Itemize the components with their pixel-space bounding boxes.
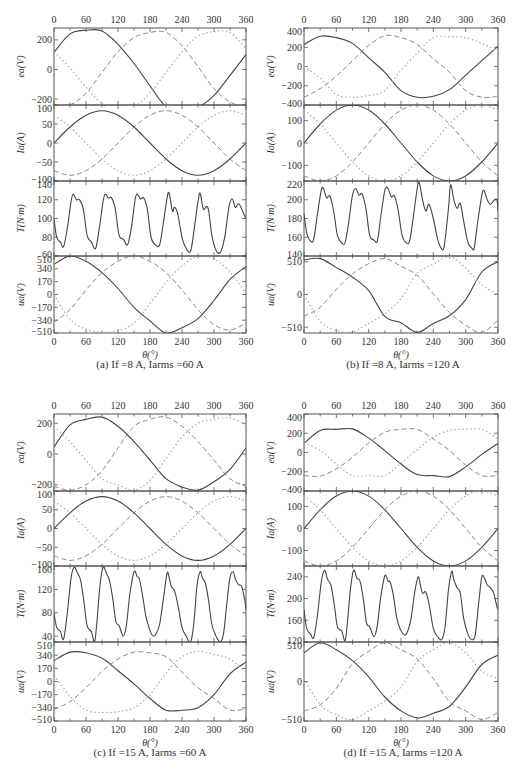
svg-text:300: 300 bbox=[458, 724, 473, 735]
svg-text:360: 360 bbox=[491, 336, 506, 347]
svg-text:−200: −200 bbox=[281, 80, 302, 91]
subplot-eav: −2000200−400400ea(V) bbox=[265, 412, 498, 495]
series-solid bbox=[304, 36, 498, 98]
svg-text:ua(V): ua(V) bbox=[15, 669, 27, 692]
subplot-eav: −2000200ea(V) bbox=[15, 28, 246, 109]
svg-text:0: 0 bbox=[47, 64, 52, 75]
svg-text:360: 360 bbox=[239, 724, 254, 735]
svg-text:200: 200 bbox=[287, 428, 302, 439]
svg-text:510: 510 bbox=[37, 254, 52, 265]
svg-text:120: 120 bbox=[37, 584, 52, 595]
svg-text:−340: −340 bbox=[31, 702, 52, 713]
svg-text:0: 0 bbox=[302, 724, 307, 735]
subplot-uav: −340−1700170340−510510ua(V) bbox=[15, 640, 246, 725]
series-solid bbox=[54, 30, 246, 109]
svg-text:Ia(A): Ia(A) bbox=[15, 132, 27, 155]
svg-text:Ia(A): Ia(A) bbox=[265, 132, 277, 155]
series-dotted bbox=[54, 651, 246, 712]
series-solid bbox=[304, 105, 498, 181]
svg-text:0: 0 bbox=[52, 336, 57, 347]
series-dashed bbox=[54, 31, 246, 107]
series-dashed bbox=[304, 35, 498, 97]
svg-text:300: 300 bbox=[207, 724, 222, 735]
series-dotted bbox=[304, 429, 498, 477]
svg-text:0: 0 bbox=[47, 523, 52, 534]
svg-text:170: 170 bbox=[37, 276, 52, 287]
svg-text:240: 240 bbox=[175, 724, 190, 735]
series-solid bbox=[54, 497, 246, 561]
svg-text:360: 360 bbox=[491, 14, 506, 25]
svg-text:510: 510 bbox=[287, 640, 302, 651]
svg-text:ea(V): ea(V) bbox=[265, 55, 277, 78]
svg-text:ua(V): ua(V) bbox=[15, 282, 27, 305]
svg-text:−170: −170 bbox=[31, 689, 52, 700]
svg-text:100: 100 bbox=[37, 103, 52, 114]
svg-text:−510: −510 bbox=[281, 322, 302, 333]
svg-text:Ia(A): Ia(A) bbox=[15, 517, 27, 540]
series-solid bbox=[304, 570, 498, 641]
caption-d: (d) If =15 A, Iarms =120 A bbox=[308, 746, 498, 758]
panel-c: 060120180240300360060120180240300360θ(°)… bbox=[0, 386, 261, 772]
svg-text:−510: −510 bbox=[31, 326, 52, 337]
svg-text:−400: −400 bbox=[281, 98, 302, 109]
caption-c: (c) If =15 A, Iarms =60 A bbox=[60, 746, 240, 758]
series-dotted bbox=[304, 643, 498, 720]
svg-text:0: 0 bbox=[302, 336, 307, 347]
chart-a: 060120180240300360060120180240300360θ(°)… bbox=[0, 0, 261, 380]
svg-text:120: 120 bbox=[111, 400, 126, 411]
series-dashed bbox=[54, 652, 246, 711]
subplot-tnm: 4080120160T(N·m) bbox=[15, 564, 246, 642]
series-dashed bbox=[304, 429, 498, 477]
svg-text:300: 300 bbox=[207, 14, 222, 25]
series-solid bbox=[304, 643, 498, 718]
svg-text:0: 0 bbox=[52, 400, 57, 411]
svg-text:−100: −100 bbox=[281, 545, 302, 556]
svg-text:0: 0 bbox=[297, 138, 302, 149]
svg-text:60: 60 bbox=[331, 14, 341, 25]
svg-text:200: 200 bbox=[37, 34, 52, 45]
svg-text:240: 240 bbox=[175, 14, 190, 25]
svg-text:180: 180 bbox=[394, 336, 409, 347]
svg-text:0: 0 bbox=[297, 523, 302, 534]
series-dashed bbox=[54, 256, 246, 330]
subplot-iaa: −50050−100100Ia(A) bbox=[15, 103, 246, 185]
svg-text:180: 180 bbox=[143, 400, 158, 411]
svg-text:360: 360 bbox=[491, 400, 506, 411]
svg-text:50: 50 bbox=[42, 119, 52, 130]
svg-text:180: 180 bbox=[394, 400, 409, 411]
svg-text:50: 50 bbox=[42, 504, 52, 515]
svg-text:360: 360 bbox=[491, 724, 506, 735]
svg-text:360: 360 bbox=[239, 336, 254, 347]
svg-text:0: 0 bbox=[47, 449, 52, 460]
svg-text:240: 240 bbox=[175, 336, 190, 347]
svg-text:240: 240 bbox=[426, 400, 441, 411]
svg-text:120: 120 bbox=[361, 14, 376, 25]
svg-text:180: 180 bbox=[143, 724, 158, 735]
series-solid bbox=[304, 428, 498, 477]
series-solid bbox=[54, 111, 246, 176]
svg-text:120: 120 bbox=[111, 14, 126, 25]
svg-text:60: 60 bbox=[81, 400, 91, 411]
svg-text:170: 170 bbox=[37, 663, 52, 674]
panel-d: 060120180240300360060120180240300360θ(°)… bbox=[261, 386, 522, 772]
series-dashed bbox=[304, 643, 498, 720]
svg-text:300: 300 bbox=[207, 336, 222, 347]
svg-text:140: 140 bbox=[37, 179, 52, 190]
svg-text:120: 120 bbox=[111, 336, 126, 347]
svg-text:ua(V): ua(V) bbox=[265, 282, 277, 305]
caption-a: (a) If =8 A, Iarms =60 A bbox=[60, 358, 240, 370]
svg-text:400: 400 bbox=[287, 412, 302, 423]
svg-text:100: 100 bbox=[287, 501, 302, 512]
subplot-iaa: −1000100Ia(A) bbox=[265, 491, 498, 566]
series-solid bbox=[54, 192, 246, 253]
svg-text:240: 240 bbox=[287, 571, 302, 582]
svg-text:−100: −100 bbox=[281, 160, 302, 171]
series-solid bbox=[54, 567, 246, 643]
svg-text:60: 60 bbox=[81, 724, 91, 735]
svg-text:ea(V): ea(V) bbox=[15, 441, 27, 464]
svg-text:300: 300 bbox=[458, 400, 473, 411]
svg-text:120: 120 bbox=[37, 194, 52, 205]
subplot-tnm: 8010012060140T(N·m) bbox=[15, 179, 246, 260]
svg-text:60: 60 bbox=[331, 336, 341, 347]
svg-text:T(N·m): T(N·m) bbox=[265, 589, 277, 618]
